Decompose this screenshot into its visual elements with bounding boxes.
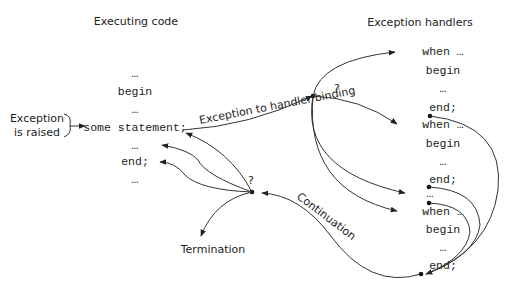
binding-label: Exception to handler binding xyxy=(198,84,356,127)
resume-statement-arrow xyxy=(186,133,252,192)
code-ellipsis: … xyxy=(132,67,139,80)
handler2-when: when … xyxy=(422,118,464,131)
code-begin: begin xyxy=(118,85,153,98)
executing-code-title: Executing code xyxy=(94,15,178,28)
handlers-gap-ellipsis: … xyxy=(427,187,434,200)
handler2-ellipsis: … xyxy=(440,155,447,168)
resume-next-arrow xyxy=(162,145,252,192)
handler1-when: when … xyxy=(422,45,464,58)
continuation-question: ? xyxy=(248,174,254,187)
code-end: end; xyxy=(121,155,149,168)
handler1-ellipsis: … xyxy=(440,82,447,95)
handler2-begin: begin xyxy=(426,137,461,150)
handler2-end: end; xyxy=(429,173,457,186)
code-some-statement: some statement; xyxy=(83,121,187,134)
termination-arrow xyxy=(201,192,252,236)
handler1-begin: begin xyxy=(426,64,461,77)
handler3-begin: begin xyxy=(426,223,461,236)
handler3-ellipsis: … xyxy=(440,241,447,254)
exception-flow-diagram: Executing code Exception handlers … begi… xyxy=(0,0,514,297)
code-ellipsis: … xyxy=(132,173,139,186)
handler3-when: when … xyxy=(422,205,464,218)
code-ellipsis: … xyxy=(132,139,139,152)
binding-question: ? xyxy=(334,82,340,95)
exception-raised-line2: is raised xyxy=(14,126,60,139)
code-ellipsis: … xyxy=(132,103,139,116)
exception-raised-line1: Exception xyxy=(10,112,64,125)
termination-label: Termination xyxy=(180,243,246,256)
resume-end-arrow xyxy=(160,162,252,192)
to-gap-arrow xyxy=(312,96,405,193)
to-handler3-arrow xyxy=(312,96,397,211)
continuation-label: Continuation xyxy=(294,190,358,243)
exception-handlers-title: Exception handlers xyxy=(367,16,473,29)
handler1-end: end; xyxy=(429,101,457,114)
brace-shape xyxy=(64,114,70,137)
